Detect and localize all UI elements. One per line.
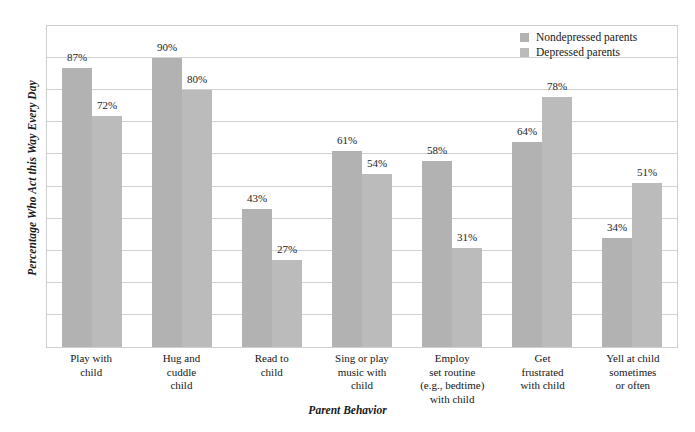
x-tick-label-line: sometimes xyxy=(589,366,677,380)
y-axis-title: Percentage Who Act this Way Every Day xyxy=(26,28,38,328)
x-tick-label-line: set routine xyxy=(408,366,496,380)
x-tick-label-line: child xyxy=(228,366,316,380)
bar: 43% xyxy=(242,209,272,347)
bar-chart-figure: Percentage Who Act this Way Every Day 87… xyxy=(0,0,695,432)
x-tick-label-line: child xyxy=(47,366,135,380)
x-tick-label: Sing or playmusic withchild xyxy=(317,352,407,406)
bar-value-label: 27% xyxy=(277,243,297,255)
x-tick-label-line: music with xyxy=(318,366,406,380)
legend-swatch-icon xyxy=(520,33,529,42)
x-tick-label-line: Read to xyxy=(228,352,316,366)
bar: 87% xyxy=(62,68,92,347)
x-tick-label-line: cuddle xyxy=(137,366,225,380)
bar: 27% xyxy=(272,260,302,347)
bar: 90% xyxy=(152,58,182,347)
bar-value-label: 51% xyxy=(637,166,657,178)
x-tick-label-line: Yell at child xyxy=(589,352,677,366)
bar-value-label: 43% xyxy=(247,192,267,204)
x-tick-label: Read tochild xyxy=(227,352,317,406)
x-tick-label-line: (e.g., bedtime) xyxy=(408,379,496,393)
legend-swatch-icon xyxy=(520,48,529,57)
bar-value-label: 61% xyxy=(337,134,357,146)
bar-value-label: 54% xyxy=(367,157,387,169)
x-tick-label-line: child xyxy=(137,379,225,393)
plot-area: 87%72%90%80%43%27%61%54%58%31%64%78%34%5… xyxy=(46,25,678,348)
x-tick-label: Hug andcuddlechild xyxy=(136,352,226,406)
bar-group: 58%31% xyxy=(407,26,497,347)
x-tick-label: Employset routine(e.g., bedtime)with chi… xyxy=(407,352,497,406)
bar: 51% xyxy=(632,183,662,347)
x-tick-label-line: Sing or play xyxy=(318,352,406,366)
x-tick-label-line: Play with xyxy=(47,352,135,366)
x-tick-label: Play withchild xyxy=(46,352,136,406)
bar-group: 61%54% xyxy=(317,26,407,347)
x-tick-label-line: Employ xyxy=(408,352,496,366)
chart-legend: Nondepressed parentsDepressed parents xyxy=(520,31,637,61)
legend-item: Depressed parents xyxy=(520,46,637,58)
x-tick-label-line: Hug and xyxy=(137,352,225,366)
bar-group: 87%72% xyxy=(47,26,137,347)
bar-value-label: 64% xyxy=(517,125,537,137)
bar-value-label: 72% xyxy=(97,99,117,111)
bar-value-label: 58% xyxy=(427,144,447,156)
x-tick-label-line: frustrated xyxy=(498,366,586,380)
bar: 72% xyxy=(92,116,122,347)
legend-label: Nondepressed parents xyxy=(536,31,637,43)
bar-value-label: 31% xyxy=(457,231,477,243)
bar-group: 90%80% xyxy=(137,26,227,347)
x-tick-label: Getfrustratedwith child xyxy=(497,352,587,406)
bar: 54% xyxy=(362,174,392,347)
bar-group: 34%51% xyxy=(587,26,677,347)
bar-value-label: 87% xyxy=(67,51,87,63)
bar: 80% xyxy=(182,90,212,347)
bar-value-label: 78% xyxy=(547,80,567,92)
bar: 78% xyxy=(542,97,572,347)
legend-label: Depressed parents xyxy=(536,46,620,58)
x-tick-label-line: Get xyxy=(498,352,586,366)
bar: 58% xyxy=(422,161,452,347)
x-axis-title: Parent Behavior xyxy=(0,404,695,416)
bar-value-label: 80% xyxy=(187,73,207,85)
bar: 34% xyxy=(602,238,632,347)
bar-group: 43%27% xyxy=(227,26,317,347)
bar: 61% xyxy=(332,151,362,347)
x-tick-label-line: with child xyxy=(498,379,586,393)
bar-groups: 87%72%90%80%43%27%61%54%58%31%64%78%34%5… xyxy=(47,26,677,347)
x-tick-label: Yell at childsometimesor often xyxy=(588,352,678,406)
x-tick-label-line: child xyxy=(318,379,406,393)
bar-group: 64%78% xyxy=(497,26,587,347)
x-tick-label-line: or often xyxy=(589,379,677,393)
bar-value-label: 90% xyxy=(157,41,177,53)
x-axis-tick-labels: Play withchildHug andcuddlechildRead toc… xyxy=(46,352,678,406)
legend-item: Nondepressed parents xyxy=(520,31,637,43)
bar-value-label: 34% xyxy=(607,221,627,233)
bar: 64% xyxy=(512,142,542,347)
bar: 31% xyxy=(452,248,482,348)
